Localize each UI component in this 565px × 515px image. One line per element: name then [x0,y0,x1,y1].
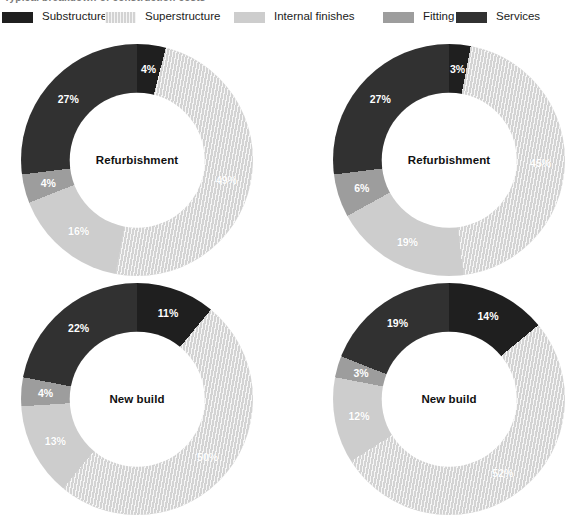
donut-ring-group: Refurbishment4%49%16%4%27% [21,44,253,276]
legend-item-services[interactable]: Services [456,11,540,23]
donut-chart-refurbishment-1: Refurbishment4%49%16%4%27% [21,44,253,276]
legend-swatch-fitting [383,12,414,23]
legend-item-internal-finishes[interactable]: Internal finishes [234,11,355,23]
donut-hole: Refurbishment [382,93,517,228]
legend-swatch-substructure [2,12,33,23]
legend-item-label: Substructure [42,11,107,23]
donut-center-title: New build [421,393,476,405]
legend-item-label: Superstructure [145,11,220,23]
donut-chart-refurbishment-2: Refurbishment3%45%19%6%27% [333,44,565,276]
donut-center-title: Refurbishment [408,154,490,166]
legend-item-label: Internal finishes [274,11,355,23]
donut-center-title: New build [109,393,164,405]
donut-ring-group: Refurbishment3%45%19%6%27% [333,44,565,276]
legend-swatch-superstructure [105,12,136,23]
cut-off-figure-title: Typical breakdown of construction costs [4,0,206,3]
legend-swatch-internal-finishes [234,12,265,23]
legend-item-fitting[interactable]: Fitting [383,11,454,23]
donut-center-title: Refurbishment [96,154,178,166]
legend-item-label: Services [496,11,540,23]
donut-ring-group: New build11%50%13%4%22% [21,283,253,515]
legend-item-substructure[interactable]: Substructure [2,11,107,23]
donut-chart-new-build-1: New build11%50%13%4%22% [21,283,253,515]
legend-swatch-services [456,12,487,23]
legend-item-superstructure[interactable]: Superstructure [105,11,220,23]
donut-hole: New build [382,332,517,467]
donut-chart-new-build-2: New build14%52%12%3%19% [333,283,565,515]
legend-item-label: Fitting [423,11,454,23]
donut-hole: Refurbishment [70,93,205,228]
chart-legend: SubstructureSuperstructureInternal finis… [0,9,536,25]
donut-ring-group: New build14%52%12%3%19% [333,283,565,515]
donut-hole: New build [70,332,205,467]
